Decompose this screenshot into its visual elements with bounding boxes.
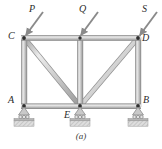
support-A (14, 107, 34, 126)
member-diagonal-C-E (25, 39, 79, 105)
load-arrow-P (26, 12, 43, 35)
joint-label-D: D (142, 33, 149, 43)
support-B (128, 107, 148, 126)
joint-dot-D (136, 36, 140, 40)
joint-label-E: E (64, 110, 70, 120)
joint-dot-top-center (78, 36, 81, 39)
support-E (70, 107, 90, 126)
truss-diagram-canvas (0, 0, 162, 149)
member-top-chord-C-T (21, 35, 81, 41)
joint-dot-C (22, 36, 26, 40)
figure-caption: (a) (0, 132, 162, 141)
member-right-post-D-B (135, 37, 141, 107)
member-left-post-C-A (21, 37, 27, 107)
truss-figure: P Q S C D A E B (a) (0, 0, 162, 149)
load-label-P: P (29, 4, 35, 14)
member-center-post-T-E (77, 37, 83, 107)
joint-label-A: A (8, 95, 14, 105)
load-arrow-Q (81, 12, 98, 35)
member-top-chord-T-D (79, 35, 141, 41)
joint-label-C: C (8, 31, 15, 41)
member-bottom-chord-A-E (21, 103, 81, 109)
member-bottom-chord-E-B (79, 103, 141, 109)
joint-label-B: B (143, 95, 149, 105)
member-diagonal-E-D (81, 39, 137, 105)
load-label-S: S (142, 4, 147, 14)
load-label-Q: Q (79, 4, 86, 14)
